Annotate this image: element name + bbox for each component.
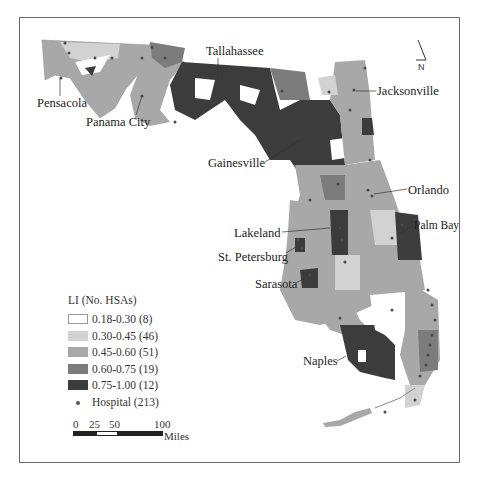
legend-swatch [68, 380, 88, 390]
map-legend: LI (No. HSAs) 0.18-0.30 (8) 0.30-0.45 (4… [68, 294, 159, 410]
svg-text:N: N [418, 62, 425, 72]
legend-swatch [68, 331, 88, 341]
scale-tick: 25 [89, 418, 100, 430]
legend-label: 0.75-1.00 (12) [92, 379, 158, 391]
city-label-panama-city: Panama City [86, 116, 150, 129]
legend-item: 0.45-0.60 (51) [68, 344, 159, 361]
legend-title: LI (No. HSAs) [68, 294, 159, 306]
hospital-dot-icon [68, 396, 88, 407]
city-label-lakeland: Lakeland [234, 227, 281, 240]
legend-item: 0.75-1.00 (12) [68, 377, 159, 394]
legend-label: 0.18-0.30 (8) [92, 313, 152, 325]
scale-unit: Miles [164, 430, 189, 442]
legend-swatch [68, 364, 88, 374]
city-label-pensacola: Pensacola [37, 97, 87, 110]
city-label-gainesville: Gainesville [208, 157, 265, 170]
scale-tick: 0 [73, 418, 79, 430]
region-naples-white [358, 350, 366, 362]
city-label-tallahassee: Tallahassee [206, 45, 263, 58]
region-central-light2 [335, 255, 360, 290]
region-keys [323, 408, 372, 427]
legend-label: 0.30-0.45 (46) [92, 330, 158, 342]
legend-label: Hospital (213) [92, 396, 159, 408]
legend-label: 0.45-0.60 (51) [92, 346, 158, 358]
city-label-palm-bay: Palm Bay [414, 220, 459, 232]
region-stpete-dark [295, 238, 305, 252]
north-arrow-icon: N [412, 40, 432, 72]
city-label-sarasota: Sarasota [255, 278, 297, 291]
legend-item: 0.18-0.30 (8) [68, 311, 159, 328]
city-label-jacksonville: Jacksonville [377, 85, 439, 98]
scale-tick: 100 [154, 418, 171, 430]
city-label-naples: Naples [303, 355, 338, 368]
region-southeast-dark [418, 330, 438, 372]
city-label-orlando: Orlando [408, 184, 449, 197]
legend-label: 0.60-0.75 (19) [92, 363, 158, 375]
legend-item: 0.60-0.75 (19) [68, 361, 159, 378]
region-jax-dark [362, 118, 374, 135]
scale-bar: 0 25 50 100 Miles [73, 418, 193, 436]
legend-item-hospital: Hospital (213) [68, 394, 159, 411]
legend-swatch [68, 314, 88, 324]
legend-swatch [68, 347, 88, 357]
region-lakeland-dark [330, 210, 348, 255]
legend-item: 0.30-0.45 (46) [68, 328, 159, 345]
scale-tick: 50 [109, 418, 120, 430]
city-label-st-petersburg: St. Petersburg [218, 251, 288, 264]
region-sarasota-dark [300, 268, 318, 288]
